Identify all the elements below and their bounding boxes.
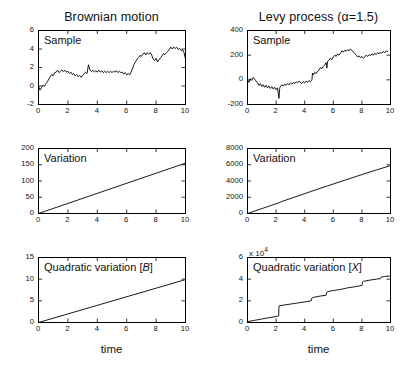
panel-annotation-levy-quadratic: Quadratic variation [X]: [253, 261, 362, 273]
y-tick-label: 10: [4, 274, 34, 283]
y-tick-label: 8000: [213, 143, 243, 152]
x-tick-label: 2: [265, 106, 287, 115]
multiplier-exponent: 4: [264, 246, 268, 253]
x-tick-label: 8: [350, 106, 372, 115]
x-tick-label: 10: [174, 324, 196, 333]
x-tick-label: 2: [56, 215, 78, 224]
y-tick-label: 400: [213, 25, 243, 34]
y-tick-label: 150: [4, 159, 34, 168]
multiplier-base: x 10: [249, 249, 264, 258]
x-tick-label: 8: [145, 324, 167, 333]
panel-annotation-bm-variation: Variation: [44, 152, 87, 164]
y-tick-label: 6: [4, 25, 34, 34]
y-tick-label: 15: [4, 252, 34, 261]
x-tick-label: 2: [265, 324, 287, 333]
annotation-symbol: B: [142, 261, 149, 273]
x-tick-label: 8: [145, 215, 167, 224]
x-tick-label: 0: [27, 106, 49, 115]
x-tick-label: 4: [86, 324, 108, 333]
x-tick-label: 6: [115, 324, 137, 333]
x-tick-label: 4: [293, 215, 315, 224]
x-tick-label: 8: [350, 215, 372, 224]
y-tick-label: 50: [4, 192, 34, 201]
y-tick-label: 6000: [213, 159, 243, 168]
axis-multiplier-label: x 104: [249, 246, 268, 258]
column-title-right: Levy process (α=1.5): [217, 10, 409, 24]
x-tick-label: 2: [56, 324, 78, 333]
x-tick-label: 10: [379, 106, 401, 115]
y-tick-label: 100: [4, 176, 34, 185]
x-tick-label: 8: [145, 106, 167, 115]
x-tick-label: 8: [350, 324, 372, 333]
x-tick-label: 4: [293, 106, 315, 115]
y-tick-label: 2000: [213, 192, 243, 201]
column-title-left: Brownian motion: [8, 10, 215, 24]
x-tick-label: 10: [379, 215, 401, 224]
y-tick-label: 0: [213, 74, 243, 83]
x-tick-label: 10: [379, 324, 401, 333]
x-tick-label: 0: [27, 324, 49, 333]
y-tick-label: 4000: [213, 176, 243, 185]
x-tick-label: 0: [236, 324, 258, 333]
y-tick-label: 5: [4, 295, 34, 304]
x-tick-label: 4: [86, 106, 108, 115]
xaxis-label-left: time: [38, 343, 185, 355]
annotation-suffix: ]: [359, 261, 362, 273]
x-tick-label: 6: [115, 215, 137, 224]
x-tick-label: 6: [322, 215, 344, 224]
annotation-symbol: X: [351, 261, 358, 273]
x-tick-label: 6: [322, 324, 344, 333]
x-tick-label: 4: [86, 215, 108, 224]
annotation-prefix: Quadratic variation [: [44, 261, 142, 273]
y-tick-label: 0: [4, 81, 34, 90]
panel-annotation-bm-sample: Sample: [44, 34, 81, 46]
x-tick-label: 0: [27, 215, 49, 224]
y-tick-label: 2: [213, 295, 243, 304]
x-tick-label: 2: [265, 215, 287, 224]
y-tick-label: 6: [213, 252, 243, 261]
y-tick-label: 2: [4, 62, 34, 71]
y-tick-label: 4: [213, 274, 243, 283]
xaxis-label-right: time: [247, 343, 390, 355]
figure-panel-grid: -202460246810Sample0501001502000246810Va…: [0, 0, 409, 367]
x-tick-label: 10: [174, 215, 196, 224]
y-tick-label: 200: [4, 143, 34, 152]
x-tick-label: 0: [236, 106, 258, 115]
panel-annotation-levy-sample: Sample: [253, 34, 290, 46]
panel-annotation-levy-variation: Variation: [253, 152, 296, 164]
annotation-prefix: Quadratic variation [: [253, 261, 351, 273]
x-tick-label: 10: [174, 106, 196, 115]
x-tick-label: 6: [115, 106, 137, 115]
x-tick-label: 6: [322, 106, 344, 115]
y-tick-label: 4: [4, 44, 34, 53]
y-tick-label: 200: [213, 50, 243, 59]
x-tick-label: 0: [236, 215, 258, 224]
x-tick-label: 2: [56, 106, 78, 115]
annotation-suffix: ]: [150, 261, 153, 273]
x-tick-label: 4: [293, 324, 315, 333]
panel-annotation-bm-quadratic: Quadratic variation [B]: [44, 261, 153, 273]
